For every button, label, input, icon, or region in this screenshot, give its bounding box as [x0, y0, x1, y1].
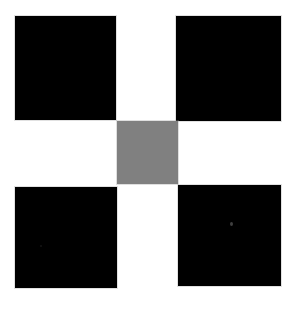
- top-left-square: [15, 16, 116, 120]
- bottom-left-square: [15, 187, 117, 288]
- bright-speck-icon: [230, 222, 233, 226]
- faint-speck-icon: [40, 245, 42, 247]
- figure-canvas: [0, 0, 304, 310]
- center-square: [117, 121, 178, 184]
- top-right-square: [176, 16, 281, 121]
- bottom-right-square: [178, 185, 281, 286]
